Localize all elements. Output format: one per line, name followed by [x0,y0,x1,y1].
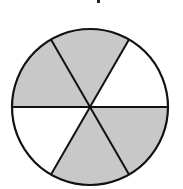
fraction-circle-diagram [0,0,183,189]
